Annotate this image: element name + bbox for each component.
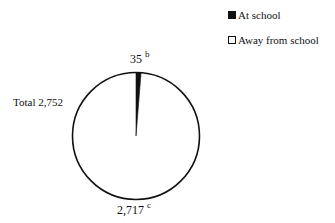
footnote-b: b [145,49,150,59]
pie-slices [73,73,200,200]
total-label: Total 2,752 [13,96,63,108]
at-school-value: 35 [130,52,142,66]
away-value: 2,717 [117,203,144,217]
away-value-label: 2,717c [117,200,151,218]
at-school-value-label: 35b [130,49,150,67]
footnote-c: c [147,200,151,210]
pie-chart [0,0,335,223]
